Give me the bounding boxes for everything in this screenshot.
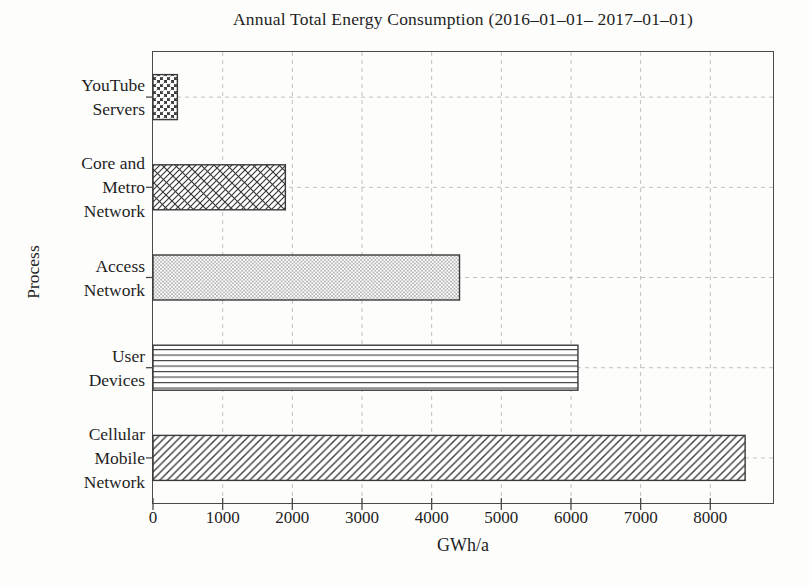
x-tick-label-2000: 2000 [275,508,309,528]
x-tick-label-5000: 5000 [484,508,518,528]
bar-hatch-diagonal-crosshatch [153,165,285,210]
x-tick-label-1000: 1000 [206,508,240,528]
bar-youtube-servers [153,75,177,120]
x-tick-label-7000: 7000 [624,508,658,528]
bars-svg [153,52,773,503]
bar-hatch-dots [153,255,460,300]
category-label-core-and-metro-network: Core and Metro Network [25,151,145,223]
plot-area [152,51,774,504]
bar-core-and-metro-network [153,165,285,210]
x-tick-label-4000: 4000 [415,508,449,528]
x-tick-label-3000: 3000 [345,508,379,528]
x-tick-label-8000: 8000 [693,508,727,528]
bar-hatch-horizontal-lines [153,345,578,390]
bar-hatch-diagonal-lines [153,435,745,480]
chart-canvas: Annual Total Energy Consumption (2016–01… [0,0,809,586]
bar-cellular-mobile-network [153,435,745,480]
bar-access-network [153,255,460,300]
bar-user-devices [153,345,578,390]
category-label-cellular-mobile-network: Cellular Mobile Network [25,422,145,494]
x-tick-label-6000: 6000 [554,508,588,528]
x-tick-label-0: 0 [149,508,158,528]
category-label-user-devices: User Devices [25,344,145,392]
chart-title: Annual Total Energy Consumption (2016–01… [153,9,773,30]
bar-hatch-circles [153,75,177,120]
x-axis-label: GWh/a [153,535,773,556]
category-label-access-network: Access Network [25,254,145,302]
category-label-youtube-servers: YouTube Servers [25,73,145,121]
